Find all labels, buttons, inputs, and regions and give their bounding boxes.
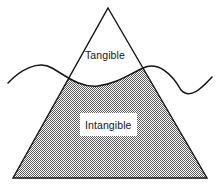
intangible-label-box: Intangible bbox=[80, 113, 137, 136]
tangible-label: Tangible bbox=[85, 49, 125, 61]
diagram-canvas: Tangible Intangible bbox=[0, 0, 219, 190]
triangle-waterline-diagram bbox=[0, 0, 219, 190]
intangible-label: Intangible bbox=[85, 119, 132, 131]
